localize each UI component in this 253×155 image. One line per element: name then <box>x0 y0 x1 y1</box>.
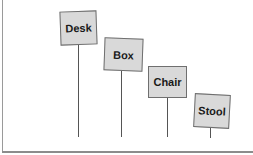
sign-label: Desk <box>65 22 92 35</box>
sign-stool: Stool <box>193 93 231 129</box>
sign-label: Stool <box>198 104 226 117</box>
sign-box: Box <box>103 37 143 71</box>
sign-chair: Chair <box>148 66 187 98</box>
sign-label: Box <box>113 48 134 61</box>
signpost-pole-desk <box>78 45 79 137</box>
signpost-pole-box <box>121 71 122 137</box>
frame-left-border <box>2 0 3 152</box>
sign-desk: Desk <box>59 10 97 45</box>
signpost-pole-chair <box>167 98 168 137</box>
ground-line <box>2 151 253 153</box>
sign-label: Chair <box>153 76 181 88</box>
signpost-pole-stool <box>210 128 211 138</box>
